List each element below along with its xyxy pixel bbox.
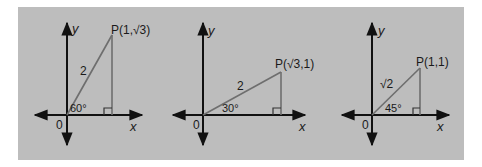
origin-label: 0 (362, 118, 369, 132)
point-label: P(√3,1) (275, 57, 314, 71)
angle-label: 60° (70, 102, 87, 114)
point-label: P(1,√3) (111, 23, 150, 37)
origin-label: 0 (56, 118, 63, 132)
angle-label: 45° (385, 102, 402, 114)
hypotenuse-label: 2 (237, 79, 244, 93)
x-axis-label: x (436, 119, 444, 134)
angle-label: 30° (222, 102, 239, 114)
hypotenuse-label: 2 (80, 64, 87, 78)
hypotenuse-label: √2 (380, 77, 394, 91)
x-axis-label: x (298, 119, 306, 134)
special-angle-triangles-figure: y x 0 P(1,√3) 2 60° y x 0 P(√3,1) 2 30° … (0, 0, 482, 167)
origin-label: 0 (193, 118, 200, 132)
point-label: P(1,1) (416, 55, 449, 69)
x-axis-label: x (129, 119, 137, 134)
